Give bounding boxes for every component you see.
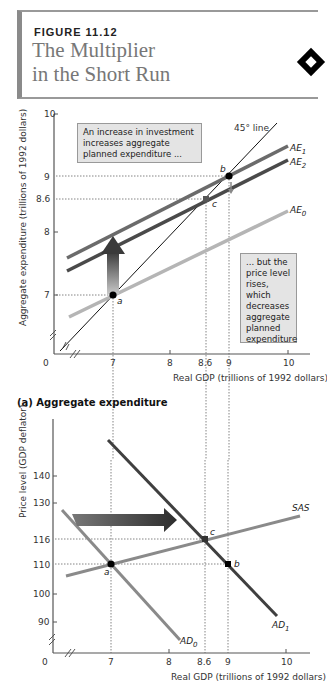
- pl-y-tick-130: 130: [33, 498, 50, 508]
- point-a: [109, 291, 116, 298]
- ae-y-tick-10: 10: [44, 109, 56, 119]
- ae-x-axis-label: Real GDP (trillions of 1992 dollars): [173, 373, 327, 383]
- pl-x-tick-9: 9: [225, 657, 231, 667]
- ae-x-tick-8-6: 8.6: [198, 358, 213, 368]
- pl-x-axis-label: Real GDP (trillions of 1992 dollars): [171, 672, 326, 682]
- pl-y-tick-116: 116: [33, 535, 50, 545]
- point-c: [203, 196, 209, 202]
- figure-charts: 10 9 8.6 8 7 0 7 8 8.6 9 10 Real GDP (tr…: [0, 0, 327, 692]
- ae-y-tick-7: 7: [44, 290, 50, 300]
- pl-x-tick-8: 8: [166, 657, 172, 667]
- ad-as-chart: 140 130 116 110 100 90 0 7 8 8.6 9 10 Re…: [18, 405, 326, 682]
- ae-y-tick-9: 9: [44, 172, 50, 182]
- investment-note: An increase in investment increases aggr…: [77, 123, 202, 163]
- line-45-label: 45° line: [234, 123, 270, 133]
- ad1-label: AD1: [271, 620, 290, 633]
- ae1-label: AE1: [289, 143, 306, 156]
- pl-x-tick-7: 7: [108, 657, 114, 667]
- pl-x-tick-10: 10: [281, 657, 293, 667]
- shift-right-arrow-icon: [72, 508, 177, 532]
- ae-x-tick-10: 10: [283, 358, 295, 368]
- point-b-label: b: [234, 559, 240, 569]
- panel-a-label: (a) Aggregate expenditure: [17, 397, 168, 408]
- point-b: [225, 561, 231, 567]
- ad0-line: [62, 510, 180, 640]
- pl-x-tick-8-6: 8.6: [197, 657, 212, 667]
- ae-y-axis-label: Aggregate expenditure (trillions of 1992…: [18, 109, 28, 326]
- point-c-label: c: [210, 527, 215, 537]
- ae-y-tick-8: 8: [44, 227, 50, 237]
- pl-x-tick-0: 0: [42, 657, 48, 667]
- pl-y-axis-label: Price level (GDP deflator): [18, 405, 28, 518]
- sas-label: SAS: [292, 503, 310, 513]
- ae-x-tick-8: 8: [167, 358, 173, 368]
- ae0-label: AE0: [289, 205, 307, 218]
- pl-y-tick-90: 90: [38, 617, 50, 627]
- pl-y-tick-100: 100: [33, 589, 50, 599]
- point-c-label: c: [212, 199, 217, 209]
- point-a-label: a: [104, 567, 110, 577]
- point-c: [202, 536, 208, 542]
- ad0-label: AD0: [179, 636, 198, 649]
- point-a-label: a: [117, 296, 123, 306]
- ae2-label: AE2: [289, 157, 307, 170]
- pl-y-tick-110: 110: [33, 560, 50, 570]
- point-b-label: b: [220, 164, 226, 174]
- price-level-note: ... but the price level rises, which dec…: [240, 253, 297, 343]
- ae-y-tick-8-6: 8.6: [36, 194, 51, 204]
- point-b: [225, 172, 232, 179]
- ae-x-tick-0: 0: [43, 358, 49, 368]
- pl-y-tick-140: 140: [33, 471, 50, 481]
